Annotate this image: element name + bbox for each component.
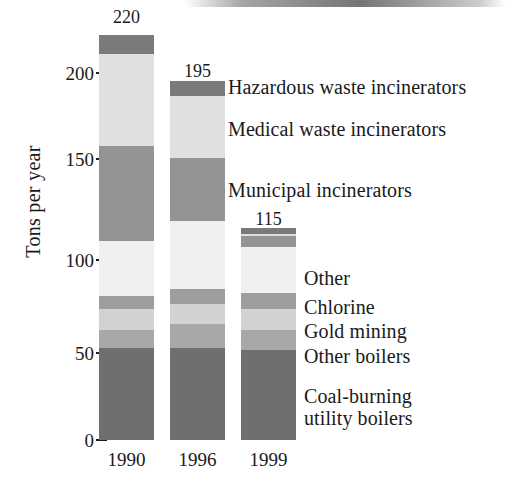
bar-stack-1990 <box>99 35 154 440</box>
bar-segment-chlorine <box>241 293 296 310</box>
bar-segment-gold-mining <box>99 309 154 329</box>
legend-label-coal-burning-utility-boilers: Coal-burningutility boilers <box>304 385 413 430</box>
bar-total-label-1990: 220 <box>99 8 154 26</box>
legend-label-other-boilers: Other boilers <box>304 345 410 367</box>
bar-1990: 220 1990 <box>99 0 154 488</box>
stacked-bar-chart: Tons per year 200 150 100 50 0 220 1990 … <box>0 0 505 488</box>
bar-total-label-1999: 115 <box>241 210 296 228</box>
bar-segment-coal-burning-utility-boilers <box>99 348 154 440</box>
bar-stack-1999 <box>241 228 296 440</box>
x-axis-label-1996: 1996 <box>170 450 225 469</box>
bar-segment-coal-burning-utility-boilers <box>170 348 225 440</box>
bar-segment-gold-mining <box>170 304 225 324</box>
legend-label-chlorine: Chlorine <box>304 296 375 318</box>
legend-label-other: Other <box>304 267 350 289</box>
bar-segment-other <box>170 221 225 289</box>
bar-segment-chlorine <box>170 289 225 304</box>
bar-1996: 195 1996 <box>170 0 225 488</box>
legend-label-coal-burning-line2: utility boilers <box>304 407 413 429</box>
bar-segment-hazardous-waste-incinerators <box>99 35 154 53</box>
bar-1999: 115 1999 <box>241 0 296 488</box>
bar-segment-other-boilers <box>241 330 296 350</box>
y-tick-label-150: 150 <box>34 150 94 169</box>
bar-segment-chlorine <box>99 296 154 309</box>
y-tick-label-0: 0 <box>34 431 94 450</box>
bar-segment-municipal-incinerators <box>241 236 296 247</box>
bar-total-label-1996: 195 <box>170 62 225 80</box>
bar-segment-gold-mining <box>241 309 296 329</box>
x-axis-label-1990: 1990 <box>99 450 154 469</box>
x-axis-label-1999: 1999 <box>241 450 296 469</box>
legend-label-municipal-incinerators: Municipal incinerators <box>228 179 412 201</box>
bar-segment-municipal-incinerators <box>170 158 225 221</box>
bar-segment-municipal-incinerators <box>99 146 154 242</box>
bar-segment-medical-waste-incinerators <box>99 54 154 146</box>
bar-stack-1996 <box>170 81 225 440</box>
bar-segment-coal-burning-utility-boilers <box>241 350 296 440</box>
y-tick-label-50: 50 <box>34 344 94 363</box>
legend-label-medical-waste-incinerators: Medical waste incinerators <box>228 118 446 140</box>
bar-segment-other <box>241 247 296 293</box>
scan-artifact-strip <box>185 0 505 7</box>
legend-label-hazardous-waste-incinerators: Hazardous waste incinerators <box>228 76 466 98</box>
bar-segment-other-boilers <box>170 324 225 348</box>
legend-label-coal-burning-line1: Coal-burning <box>304 385 412 407</box>
y-tick-label-100: 100 <box>34 251 94 270</box>
bar-segment-medical-waste-incinerators <box>170 96 225 159</box>
bar-segment-hazardous-waste-incinerators <box>170 81 225 96</box>
y-tick-label-200: 200 <box>34 64 94 83</box>
bar-segment-other <box>99 241 154 296</box>
bar-segment-other-boilers <box>99 330 154 348</box>
legend-label-gold-mining: Gold mining <box>304 320 407 342</box>
